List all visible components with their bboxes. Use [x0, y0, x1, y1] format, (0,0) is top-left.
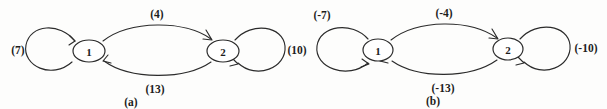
panel-b-node-2: 2: [493, 38, 523, 60]
panel-b-caption: (b): [426, 95, 440, 108]
panel-b-node-1: 1: [363, 39, 393, 61]
arc-2-to-1-path: [392, 60, 497, 74]
panel-a-arc-1-to-2: [103, 25, 212, 41]
weight-label-arc-2-to-1: (-13): [432, 82, 455, 95]
node-2-label: 2: [505, 44, 511, 56]
arc-2-to-1-path: [104, 61, 211, 75]
weight-label-self-loop-1: (-7): [313, 9, 330, 22]
arc-1-to-2-path: [391, 24, 497, 40]
panel-a-caption: (a): [124, 96, 138, 109]
panel-a-self-loop-node-1: [26, 28, 75, 70]
panel-b: 1 2 (-7) (-4) (-13) (-10) (b): [313, 7, 597, 108]
self-loop-2-path: [520, 27, 570, 70]
weight-label-arc-1-to-2: (-4): [435, 7, 452, 20]
panel-a-node-2: 2: [207, 40, 239, 62]
weight-label-self-loop-2: (10): [287, 44, 306, 57]
node-2-label: 2: [220, 46, 226, 58]
panel-a: 1 2 (7) (4) (13) (10) (a): [11, 8, 306, 109]
self-loop-1-arrowhead: [69, 36, 75, 45]
panel-b-self-loop-node-1: [317, 28, 369, 71]
arc-1-to-2-path: [103, 25, 211, 41]
panel-a-node-1: 1: [73, 40, 105, 62]
self-loop-1-path: [317, 28, 368, 71]
weight-label-self-loop-2: (-10): [575, 42, 598, 55]
panel-b-arc-1-to-2: [391, 24, 498, 40]
panel-b-arc-2-to-1: [380, 55, 497, 74]
state-transition-diagrams: 1 2 (7) (4) (13) (10) (a): [0, 0, 607, 109]
weight-label-self-loop-1: (7): [11, 44, 25, 57]
self-loop-1-path: [26, 28, 75, 70]
weight-label-arc-2-to-1: (13): [145, 83, 164, 96]
self-loop-2-path: [235, 28, 285, 71]
self-loop-1-arrowhead: [361, 59, 369, 67]
panel-a-arc-2-to-1: [103, 55, 211, 75]
node-1-label: 1: [375, 45, 381, 57]
figure-container: 1 2 (7) (4) (13) (10) (a): [0, 0, 607, 109]
node-1-label: 1: [86, 46, 92, 58]
arc-2-to-1-arrowhead: [103, 55, 111, 63]
weight-label-arc-1-to-2: (4): [150, 8, 164, 21]
panel-b-self-loop-node-2: [516, 27, 570, 70]
